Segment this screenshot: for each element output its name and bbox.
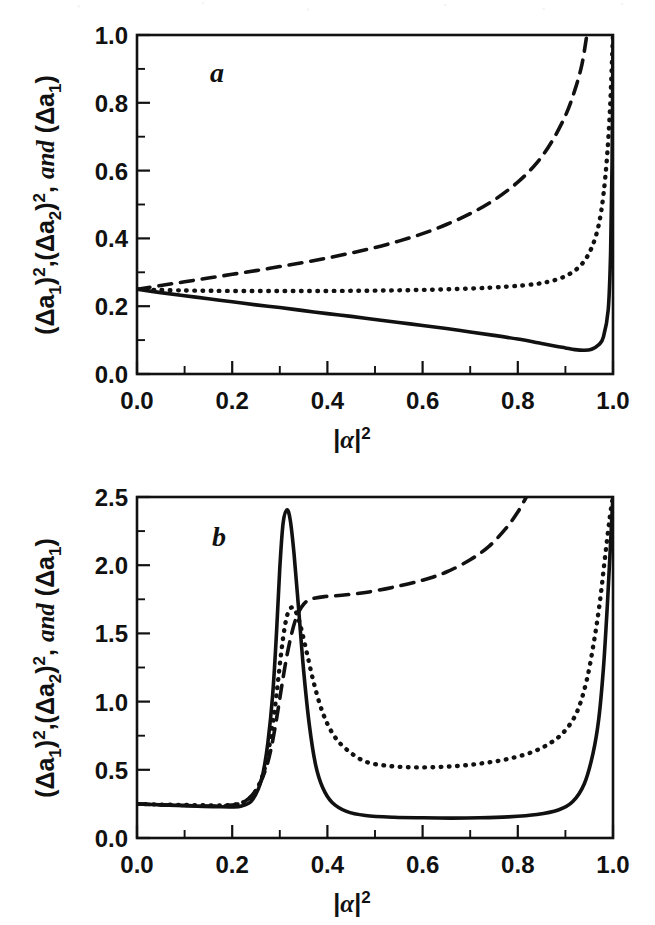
x-tick-labels: 0.00.20.40.60.81.0	[120, 851, 629, 878]
series-curve-dotted	[137, 497, 613, 805]
x-tick-label: 0.0	[120, 387, 153, 414]
y-axis-title: (Δa1)2,(Δa2)2, and (Δa1)	[30, 75, 65, 335]
y-tick-label: 2.5	[95, 484, 128, 511]
x-tick-label: 0.2	[216, 851, 249, 878]
panel-b-curves	[137, 497, 613, 818]
y-tick-label: 1.5	[95, 620, 128, 647]
x-tick-label: 0.8	[501, 387, 534, 414]
x-tick-label: 1.0	[596, 851, 629, 878]
y-tick-label: 0.6	[95, 158, 128, 185]
x-axis-title: |α|2	[333, 888, 370, 917]
panel-b-svg: b 0.00.20.40.60.81.0 0.00.51.01.52.02.5 …	[0, 462, 655, 924]
y-tick-label: 2.0	[95, 552, 128, 579]
panel-a: a 0.00.20.40.60.81.0 0.00.20.40.60.81.0 …	[0, 0, 655, 462]
series-curve-solid	[137, 497, 613, 818]
figure-container: a 0.00.20.40.60.81.0 0.00.20.40.60.81.0 …	[0, 0, 655, 925]
x-tick-label: 0.4	[311, 851, 345, 878]
plot-frame	[137, 35, 613, 374]
x-axis-title: |α|2	[333, 424, 370, 453]
panel-b: b 0.00.20.40.60.81.0 0.00.51.01.52.02.5 …	[0, 462, 655, 924]
panel-b-axes	[137, 497, 613, 838]
panel-a-axes	[137, 35, 613, 374]
y-tick-labels: 0.00.51.01.52.02.5	[95, 484, 128, 852]
x-tick-label: 0.4	[311, 387, 345, 414]
panel-letter-b: b	[212, 521, 226, 552]
x-tick-label: 0.2	[216, 387, 249, 414]
x-tick-label: 0.6	[406, 851, 439, 878]
y-tick-label: 1.0	[95, 22, 128, 49]
x-tick-label: 0.0	[120, 851, 153, 878]
y-axis-title-group: (Δa1)2,(Δa2)2, and (Δa1)	[30, 75, 65, 335]
y-tick-label: 0.4	[95, 225, 129, 252]
y-axis-title-group: (Δa1)2,(Δa2)2, and (Δa1)	[30, 538, 65, 798]
panel-a-curves	[137, 35, 613, 350]
y-axis-title: (Δa1)2,(Δa2)2, and (Δa1)	[30, 538, 65, 798]
x-tick-labels: 0.00.20.40.60.81.0	[120, 387, 629, 414]
y-tick-label: 0.8	[95, 90, 128, 117]
series-curve-solid	[137, 35, 613, 350]
y-tick-label: 1.0	[95, 689, 128, 716]
y-tick-label: 0.0	[95, 361, 128, 388]
y-tick-label: 0.2	[95, 293, 128, 320]
x-axis-title-group: |α|2	[333, 888, 370, 917]
y-tick-label: 0.0	[95, 825, 128, 852]
series-curve-dashed	[137, 497, 526, 806]
plot-frame	[137, 497, 613, 838]
x-tick-label: 0.8	[501, 851, 534, 878]
panel-letter-a: a	[210, 57, 224, 88]
y-tick-label: 0.5	[95, 757, 128, 784]
series-curve-dotted	[137, 35, 613, 291]
axis-ticks	[137, 497, 613, 838]
y-tick-labels: 0.00.20.40.60.81.0	[95, 22, 129, 388]
axis-ticks	[137, 35, 613, 374]
x-tick-label: 1.0	[596, 387, 629, 414]
panel-a-svg: a 0.00.20.40.60.81.0 0.00.20.40.60.81.0 …	[0, 0, 655, 462]
x-axis-title-group: |α|2	[333, 424, 370, 453]
series-curve-dashed	[137, 35, 587, 289]
x-tick-label: 0.6	[406, 387, 439, 414]
